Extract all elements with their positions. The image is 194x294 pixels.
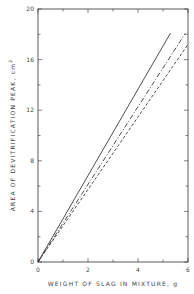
x-tick-labels: 0246 xyxy=(36,266,190,273)
y-tick-label: 16 xyxy=(26,56,34,63)
y-tick-label: 0 xyxy=(30,258,34,265)
y-ticks xyxy=(38,9,188,262)
y-tick-label: 20 xyxy=(26,5,34,12)
y-axis-title: AREA OF DEVITRIFICATION PEAK, cm2 xyxy=(8,59,16,212)
series-dashed xyxy=(38,44,188,262)
x-tick-label: 0 xyxy=(36,266,40,273)
chart: 0246 048121620 WEIGHT OF SLAG IN MIXTURE… xyxy=(0,0,194,294)
x-tick-label: 4 xyxy=(136,266,140,273)
x-tick-label: 2 xyxy=(86,266,90,273)
y-tick-labels: 048121620 xyxy=(26,5,34,265)
x-tick-label: 6 xyxy=(186,266,190,273)
y-tick-label: 8 xyxy=(30,157,34,164)
series-solid xyxy=(38,33,171,262)
x-ticks xyxy=(38,9,188,262)
plot-frame xyxy=(38,9,188,262)
series-dash-dot xyxy=(38,33,186,262)
y-tick-label: 4 xyxy=(30,207,34,214)
series-lines xyxy=(38,33,188,262)
y-tick-label: 12 xyxy=(26,106,34,113)
x-axis-title: WEIGHT OF SLAG IN MIXTURE, g xyxy=(48,280,179,288)
